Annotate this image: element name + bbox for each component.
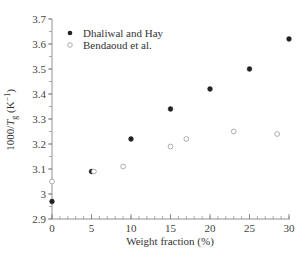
y-tick-label: 3.5 [32, 63, 46, 75]
y-tick-label: 3.6 [32, 38, 46, 50]
data-point-dhaliwal [50, 199, 55, 204]
y-tick-label: 3.4 [32, 88, 46, 100]
data-point-dhaliwal [247, 67, 252, 72]
legend-label-bendaoud: Bendaoud et al. [83, 39, 152, 51]
x-tick-label: 30 [284, 222, 296, 234]
x-tick-label: 15 [165, 222, 177, 234]
data-points [50, 37, 292, 204]
data-point-dhaliwal [168, 107, 173, 112]
y-tick-label: 3.2 [32, 138, 46, 150]
x-axis: 051015202530 [49, 214, 295, 234]
data-point-bendaoud [121, 164, 126, 169]
data-point-dhaliwal [287, 37, 292, 42]
data-point-bendaoud [275, 132, 280, 137]
x-tick-label: 0 [49, 222, 55, 234]
data-point-bendaoud [91, 169, 96, 174]
legend: Dhaliwal and Hay Bendaoud et al. [68, 27, 164, 51]
data-point-dhaliwal [208, 87, 213, 92]
scatter-chart: 2.933.13.23.33.43.53.63.7 051015202530 D… [0, 0, 308, 259]
y-tick-label: 3.3 [32, 113, 46, 125]
legend-marker-filled-icon [68, 31, 73, 36]
y-tick-label: 3 [41, 188, 47, 200]
y-axis-label: 1000/Tg (K−1) [3, 89, 19, 151]
data-point-bendaoud [231, 129, 236, 134]
x-tick-label: 10 [126, 222, 138, 234]
data-point-bendaoud [50, 179, 55, 184]
legend-marker-open-icon [68, 43, 73, 48]
legend-label-dhaliwal: Dhaliwal and Hay [83, 27, 164, 39]
y-tick-label: 3.1 [32, 163, 46, 175]
x-tick-label: 5 [89, 222, 95, 234]
data-point-bendaoud [168, 144, 173, 149]
y-axis: 2.933.13.23.33.43.53.63.7 [32, 13, 52, 225]
y-tick-label: 3.7 [32, 13, 46, 25]
x-axis-label: Weight fraction (%) [126, 235, 214, 248]
data-point-dhaliwal [129, 137, 134, 142]
y-tick-label: 2.9 [32, 213, 46, 225]
data-point-bendaoud [184, 137, 189, 142]
x-tick-label: 20 [205, 222, 217, 234]
x-tick-label: 25 [244, 222, 256, 234]
